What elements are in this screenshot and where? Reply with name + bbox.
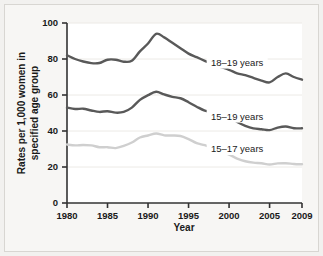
x-axis-tick-label: 2005 (259, 210, 281, 221)
y-axis-tick-label: 0 (53, 197, 58, 208)
figure-inner-panel: 020406080100 198019851990199520002005200… (4, 4, 319, 252)
y-axis-tick-labels: 020406080100 (42, 17, 58, 208)
y-axis-tick-label: 60 (47, 89, 58, 100)
series-label-15-17-years: 15–17 years (211, 143, 264, 154)
x-axis-tick-label: 2009 (291, 210, 312, 221)
y-axis-tick-label: 80 (47, 53, 58, 64)
line-chart: 020406080100 198019851990199520002005200… (5, 5, 318, 251)
y-axis-title-line2: specified age group (29, 66, 40, 160)
y-axis-tick-label: 40 (47, 125, 58, 136)
y-axis-title-line1: Rates per 1,000 women in (16, 52, 27, 174)
x-axis-tick-label: 1990 (137, 210, 158, 221)
series-label-18-19-years: 18–19 years (211, 57, 264, 68)
x-axis-tick-label: 1980 (56, 210, 77, 221)
x-axis-tick-labels: 1980198519901995200020052009 (56, 210, 312, 221)
series-label-15-19-years: 15–19 years (211, 111, 264, 122)
y-axis-tick-label: 20 (47, 161, 58, 172)
x-axis-tick-label: 2000 (218, 210, 239, 221)
figure-container: 020406080100 198019851990199520002005200… (0, 0, 323, 256)
x-axis-tick-label: 1985 (97, 210, 119, 221)
x-axis-title: Year (173, 222, 194, 233)
x-axis-tick-label: 1995 (178, 210, 200, 221)
y-axis-tick-label: 100 (42, 17, 58, 28)
